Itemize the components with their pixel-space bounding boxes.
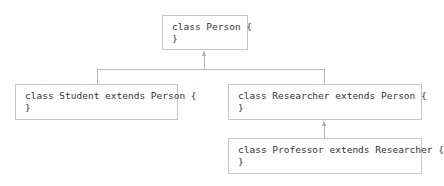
connector-person-trunk xyxy=(204,56,205,70)
class-declaration: class Person { xyxy=(172,21,252,32)
connector-professor xyxy=(324,126,325,138)
class-closing-brace: } xyxy=(172,33,178,44)
class-declaration: class Professor extends Researcher { xyxy=(238,144,444,155)
class-closing-brace: } xyxy=(238,156,244,167)
class-node-person: class Person { } xyxy=(162,15,248,50)
connector-researcher xyxy=(324,69,325,84)
arrowhead-to-person xyxy=(202,50,206,56)
class-node-student: class Student extends Person { } xyxy=(15,84,178,120)
connector-horizontal xyxy=(97,69,325,70)
connector-student xyxy=(97,69,98,84)
class-declaration: class Student extends Person { xyxy=(25,90,197,101)
class-node-researcher: class Researcher extends Person { } xyxy=(228,84,422,120)
class-node-professor: class Professor extends Researcher { } xyxy=(228,138,422,174)
class-closing-brace: } xyxy=(25,102,31,113)
class-closing-brace: } xyxy=(238,102,244,113)
class-declaration: class Researcher extends Person { xyxy=(238,90,427,101)
arrowhead-to-researcher xyxy=(322,120,326,126)
